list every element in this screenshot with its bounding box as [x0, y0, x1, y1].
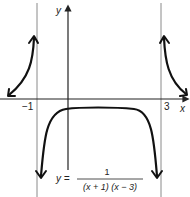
- x-axis-label: x: [179, 103, 186, 114]
- y-axis-label: y: [55, 5, 62, 16]
- equation-numerator: 1: [104, 167, 109, 177]
- curve-middle-branch: [41, 108, 157, 177]
- equation-lhs: y =: [55, 173, 70, 184]
- tick-label-3: 3: [164, 101, 170, 112]
- tick-label-neg1: −1: [22, 101, 34, 112]
- curve-right-branch: [164, 38, 186, 94]
- equation-denominator: (x + 1) (x − 3): [83, 182, 137, 192]
- function-graph: y x −1 3 y = 1 (x + 1) (x − 3): [0, 0, 190, 197]
- curve-left-branch: [9, 38, 34, 95]
